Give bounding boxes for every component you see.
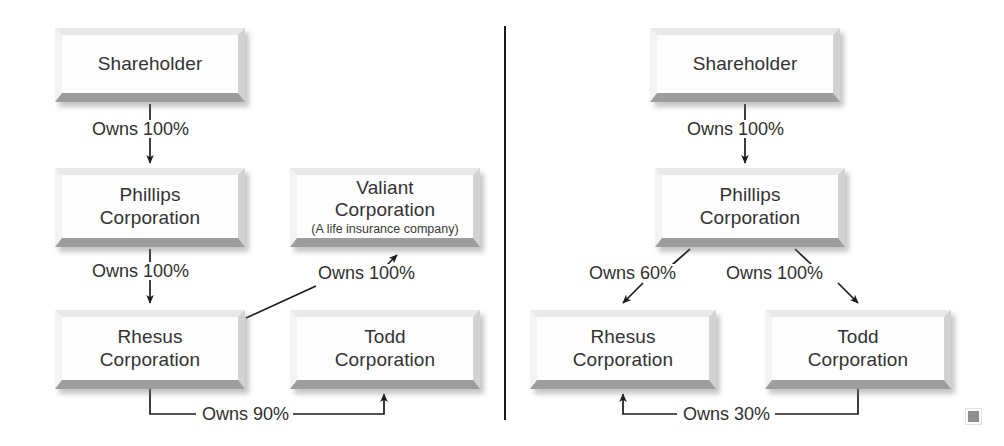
node-title-line2: Corporation: [100, 207, 200, 229]
node-title-line1: Todd: [364, 326, 406, 348]
edge-label-r-e2: Owns 60%: [585, 264, 680, 282]
edge-line-r-e4-right: [775, 389, 858, 414]
node-shareholder-right: Shareholder: [650, 28, 840, 102]
edge-line-l-e4-right: [291, 394, 384, 414]
edge-label-l-e3: Owns 100%: [314, 264, 419, 282]
edge-label-r-e3: Owns 100%: [722, 264, 827, 282]
node-title: Shareholder: [693, 53, 798, 75]
node-title-line2: Corporation: [335, 349, 435, 371]
node-title-line2: Corporation: [100, 349, 200, 371]
node-title-line2: Corporation: [700, 207, 800, 229]
node-title-line1: Phillips: [720, 184, 781, 206]
edge-label-r-e4: Owns 30%: [679, 405, 774, 423]
node-todd-left: Todd Corporation: [290, 310, 480, 389]
node-phillips-right: Phillips Corporation: [655, 168, 845, 247]
node-title-line1: Phillips: [120, 184, 181, 206]
node-rhesus-right: Rhesus Corporation: [530, 310, 716, 389]
node-title-line1: Rhesus: [117, 326, 182, 348]
node-title-line1: Rhesus: [590, 326, 655, 348]
node-shareholder-left: Shareholder: [55, 28, 245, 102]
node-phillips-left: Phillips Corporation: [55, 168, 245, 247]
edge-label-l-e2: Owns 100%: [88, 262, 193, 280]
edge-line-r-e4-left: [623, 394, 677, 414]
edge-line-l-e4-left: [150, 389, 196, 414]
panel-divider: [504, 26, 506, 420]
node-title-line1: Todd: [837, 326, 879, 348]
node-valiant-left: Valiant Corporation (A life insurance co…: [290, 168, 480, 247]
edge-line-r-e2-lower: [623, 283, 643, 303]
edge-label-l-e4: Owns 90%: [198, 405, 293, 423]
node-subtitle: (A life insurance company): [311, 222, 458, 237]
edge-label-r-e1: Owns 100%: [683, 120, 788, 138]
diagram-canvas: Shareholder Phillips Corporation Valiant…: [0, 0, 1004, 446]
edge-line-r-e3-lower: [838, 283, 858, 303]
end-of-article-square-icon: [966, 409, 981, 424]
node-title-line2: Corporation: [335, 199, 435, 221]
edge-label-l-e1: Owns 100%: [88, 120, 193, 138]
node-title-line2: Corporation: [573, 349, 673, 371]
node-title: Shareholder: [98, 53, 203, 75]
node-todd-right: Todd Corporation: [765, 310, 951, 389]
node-rhesus-left: Rhesus Corporation: [55, 310, 245, 389]
node-title-line1: Valiant: [356, 177, 413, 199]
node-title-line2: Corporation: [808, 349, 908, 371]
